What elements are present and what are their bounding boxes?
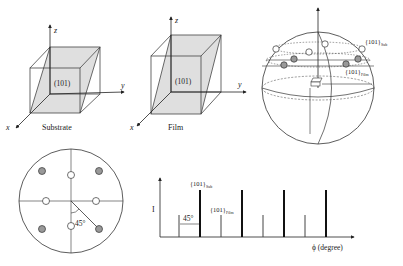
substrate-caption: Substrate	[42, 123, 72, 132]
x-axis-label: ϕ (degree)	[312, 243, 343, 252]
film-cube: z y x (101) Film	[129, 16, 246, 132]
spacing-label: 45°	[183, 214, 194, 223]
film-peak-label: {101}Film	[210, 206, 234, 215]
film-pole-label: {101}Film	[345, 68, 369, 77]
z-axis-label: z	[53, 26, 58, 35]
y-axis-label: y	[120, 81, 125, 90]
sub-peak-label: {101}Sub	[190, 180, 212, 189]
x-axis-label: x	[5, 123, 10, 132]
plane-label: (101)	[175, 77, 192, 86]
pole-sphere: {101}Sub {101}Film	[262, 8, 387, 144]
z-axis-label: z	[174, 16, 179, 25]
diagram-canvas: z y x (101) Substrate z y x (101) Film	[0, 0, 403, 266]
y-axis-label: y	[237, 80, 242, 89]
pole-figure: 45°	[19, 149, 123, 253]
plane-label: (101)	[54, 79, 71, 88]
film-caption: Film	[168, 123, 184, 132]
sub-pole-label: {101}Sub	[365, 38, 387, 47]
angle-label: 45°	[75, 219, 86, 228]
phi-scan-chart: I ϕ (degree) 45° {101}Sub {101}Film	[152, 178, 354, 252]
substrate-cube: z y x (101) Substrate	[5, 25, 125, 132]
sample-icon	[311, 78, 322, 82]
x-axis-label: x	[129, 123, 134, 132]
y-axis-label: I	[152, 205, 155, 214]
